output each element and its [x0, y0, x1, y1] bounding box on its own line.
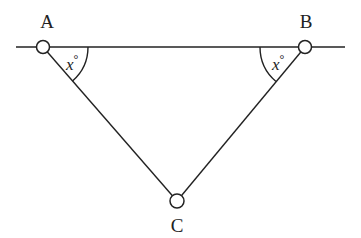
triangle-diagram: A B C x° x°: [0, 0, 361, 238]
point-a-label: A: [40, 11, 54, 32]
point-b-marker: [299, 41, 312, 54]
angle-b-degree: °: [280, 52, 285, 66]
angle-b-label: x°: [271, 52, 285, 74]
point-b-label: B: [300, 11, 313, 32]
point-a-marker: [37, 41, 50, 54]
angle-a-degree: °: [74, 52, 79, 66]
angle-a-label: x°: [65, 52, 79, 74]
segment-ac: [43, 47, 177, 201]
segment-bc: [177, 47, 305, 201]
point-c-marker: [170, 194, 184, 208]
point-c-label: C: [171, 215, 184, 236]
